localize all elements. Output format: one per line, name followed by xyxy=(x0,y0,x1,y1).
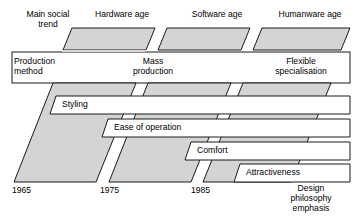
emphasis-bar-styling[interactable] xyxy=(50,96,350,114)
flexible-specialisation-line1: Flexible xyxy=(286,56,316,66)
production-method-caption-line1: Production xyxy=(14,56,55,66)
era-parallelogram-humanware xyxy=(253,28,350,50)
emphasis-label-comfort: Comfort xyxy=(197,146,228,156)
production-label-flexible-specialisation: Flexiblespecialisation xyxy=(252,57,350,76)
main-social-trend-caption-line2: trend xyxy=(38,19,58,29)
era-parallelogram-software xyxy=(158,28,250,50)
mass-production-line2: production xyxy=(133,66,173,76)
mass-production-line1: Mass xyxy=(143,56,164,66)
axis-year-1975: 1975 xyxy=(100,186,119,196)
design-philosophy-diagram: Main socialtrend Hardware age Software a… xyxy=(0,0,362,219)
main-social-trend-caption-line1: Main social xyxy=(27,9,70,19)
era-label-software: Software age xyxy=(176,10,258,20)
emphasis-label-attractiveness: Attractiveness xyxy=(246,168,300,178)
production-label-mass-production: Massproduction xyxy=(108,57,198,76)
axis-year-1985: 1985 xyxy=(191,186,210,196)
era-label-hardware: Hardware age xyxy=(81,10,163,20)
design-philosophy-emphasis-caption: Designphilosophyemphasis xyxy=(268,183,354,213)
emphasis-label-ease-of-operation: Ease of operation xyxy=(114,123,181,133)
era-continuation-band-top xyxy=(62,50,146,52)
axis-year-1965: 1965 xyxy=(12,186,31,196)
design-philosophy-caption-line2: philosophy xyxy=(290,193,331,203)
flexible-specialisation-line2: specialisation xyxy=(275,66,327,76)
production-method-caption-line2: method xyxy=(14,66,43,76)
era-parallelogram-hardware xyxy=(63,28,155,50)
era-band-hardware-top xyxy=(62,50,146,52)
era-parallelogram-group xyxy=(63,28,350,50)
design-philosophy-caption-line3: emphasis xyxy=(293,203,330,213)
emphasis-label-styling: Styling xyxy=(62,100,88,110)
production-method-caption: Productionmethod xyxy=(14,57,104,76)
era-label-humanware: Humanware age xyxy=(265,10,355,20)
design-philosophy-caption-line1: Design xyxy=(298,183,325,193)
main-social-trend-caption: Main socialtrend xyxy=(12,10,84,29)
